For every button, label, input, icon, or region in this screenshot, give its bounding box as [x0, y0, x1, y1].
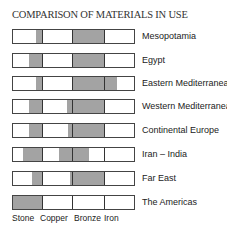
column-divider: [72, 124, 73, 137]
column-divider: [104, 100, 105, 113]
column-divider: [72, 30, 73, 43]
chart-row: [12, 53, 135, 68]
column-divider: [104, 196, 105, 209]
column-divider: [72, 100, 73, 113]
column-divider: [104, 77, 105, 90]
chart-row: [12, 29, 135, 44]
shaded-segment: [23, 148, 43, 161]
row-label: Mesopotamia: [142, 29, 196, 44]
chart-row: [12, 76, 135, 91]
shaded-segment: [13, 196, 43, 209]
column-divider: [104, 30, 105, 43]
shaded-segment: [73, 54, 105, 67]
column-divider: [104, 172, 105, 185]
column-divider: [72, 148, 73, 161]
shaded-segment: [29, 54, 43, 67]
column-divider: [104, 148, 105, 161]
x-label-iron: Iron: [104, 213, 119, 223]
shaded-segment: [73, 77, 105, 90]
column-divider: [72, 172, 73, 185]
chart-row: [12, 147, 135, 162]
shaded-segment: [73, 100, 105, 113]
shaded-segment: [73, 30, 105, 43]
row-label: Iran – India: [142, 147, 187, 162]
column-divider: [42, 30, 43, 43]
shaded-segment: [73, 148, 89, 161]
column-divider: [72, 54, 73, 67]
column-divider: [42, 100, 43, 113]
column-divider: [42, 148, 43, 161]
column-divider: [104, 54, 105, 67]
row-label: Far East: [142, 171, 176, 186]
shaded-segment: [59, 148, 73, 161]
shaded-segment: [73, 172, 105, 185]
shaded-segment: [29, 100, 43, 113]
column-divider: [42, 77, 43, 90]
row-label: Egypt: [142, 53, 165, 68]
row-label: The Americas: [142, 195, 197, 210]
column-divider: [42, 196, 43, 209]
column-divider: [72, 77, 73, 90]
column-divider: [42, 54, 43, 67]
shaded-segment: [73, 124, 105, 137]
x-label-copper: Copper: [40, 213, 68, 223]
x-label-stone: Stone: [12, 213, 34, 223]
chart-row: [12, 171, 135, 186]
chart-row: [12, 195, 135, 210]
row-label: Western Mediterranean: [142, 99, 227, 114]
chart-row: [12, 99, 135, 114]
row-label: Continental Europe: [142, 123, 219, 138]
x-label-bronze: Bronze: [74, 213, 101, 223]
chart-title: COMPARISON OF MATERIALS IN USE: [12, 9, 188, 20]
row-label: Eastern Mediterranean: [142, 76, 227, 91]
shaded-segment: [105, 77, 117, 90]
column-divider: [42, 172, 43, 185]
column-divider: [104, 124, 105, 137]
shaded-segment: [29, 124, 43, 137]
chart-row: [12, 123, 135, 138]
column-divider: [72, 196, 73, 209]
column-divider: [42, 124, 43, 137]
